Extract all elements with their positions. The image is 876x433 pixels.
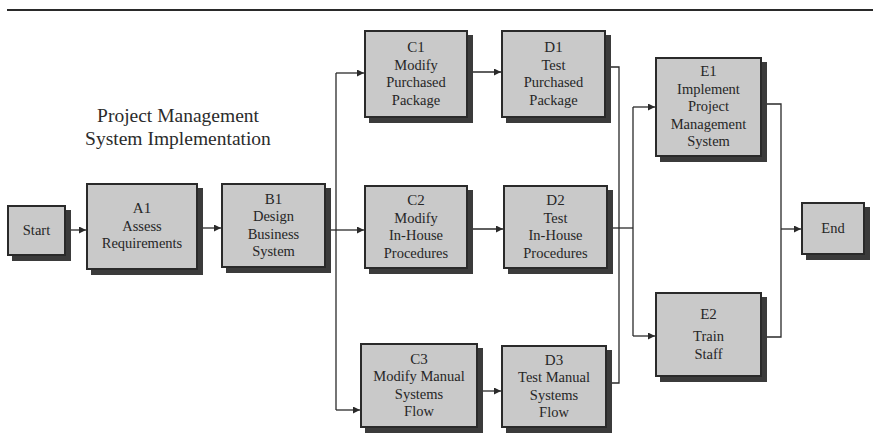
node-b1-line3: System — [252, 243, 295, 261]
node-d3-line1: Test Manual — [518, 369, 590, 387]
node-e1-line2: Project — [688, 98, 729, 116]
node-start: Start — [7, 205, 66, 256]
node-e2: E2 Train Staff — [655, 292, 762, 377]
node-c1-id: C1 — [407, 39, 425, 57]
node-c2-line1: Modify — [394, 210, 438, 228]
node-d3: D3 Test Manual Systems Flow — [501, 345, 607, 428]
node-d1-line2: Purchased — [524, 74, 584, 92]
bus-e-merge — [762, 104, 781, 337]
node-d3-line2: Systems — [530, 387, 578, 405]
node-d2: D2 Test In-House Procedures — [503, 185, 608, 269]
node-c3: C3 Modify Manual Systems Flow — [360, 343, 478, 428]
node-c3-line1: Modify Manual — [373, 368, 464, 386]
node-e1-line4: System — [687, 133, 730, 151]
node-d2-line2: In-House — [529, 227, 583, 245]
node-b1-line1: Design — [253, 208, 294, 226]
node-d3-id: D3 — [545, 352, 563, 370]
node-d2-line3: Procedures — [523, 245, 587, 263]
node-c1-line3: Package — [392, 92, 440, 110]
node-b1-id: B1 — [265, 191, 283, 209]
node-end-label: End — [821, 220, 844, 238]
node-a1-line1: Assess — [122, 218, 161, 236]
node-c1-line2: Purchased — [386, 74, 446, 92]
node-b1-line2: Business — [248, 226, 300, 244]
node-d2-line1: Test — [544, 210, 568, 228]
node-c2-line3: Procedures — [384, 245, 448, 263]
node-c2: C2 Modify In-House Procedures — [364, 185, 468, 269]
node-c2-id: C2 — [407, 192, 425, 210]
node-e1-id: E1 — [700, 63, 717, 81]
node-c3-line3: Flow — [404, 403, 434, 421]
node-e2-id: E2 — [700, 306, 717, 324]
node-start-label: Start — [23, 222, 50, 240]
node-d1-line3: Package — [529, 92, 577, 110]
node-e1-line1: Implement — [677, 81, 740, 99]
node-e1: E1 Implement Project Management System — [655, 57, 762, 157]
node-d1-line1: Test — [542, 57, 566, 75]
node-c3-line2: Systems — [395, 386, 443, 404]
node-a1: A1 Assess Requirements — [86, 183, 198, 270]
node-end: End — [801, 202, 865, 255]
node-c3-id: C3 — [410, 351, 428, 369]
node-e2-line1: Train — [693, 328, 724, 346]
node-c2-line2: In-House — [389, 227, 443, 245]
node-d1: D1 Test Purchased Package — [501, 30, 606, 118]
node-a1-id: A1 — [133, 200, 151, 218]
node-d3-line3: Flow — [539, 404, 569, 422]
node-d1-id: D1 — [544, 39, 562, 57]
node-a1-line2: Requirements — [102, 235, 183, 253]
node-e2-line2: Staff — [695, 346, 723, 364]
node-b1: B1 Design Business System — [221, 183, 326, 268]
node-e1-line3: Management — [671, 116, 747, 134]
node-d2-id: D2 — [546, 192, 564, 210]
node-c1-line1: Modify — [394, 57, 438, 75]
node-c1: C1 Modify Purchased Package — [364, 30, 468, 118]
